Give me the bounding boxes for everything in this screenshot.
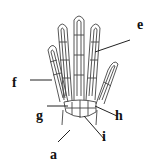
leader-e (95, 40, 130, 52)
middle-finger-bones (74, 16, 84, 100)
leader-h (95, 106, 117, 116)
leader-a (58, 130, 70, 142)
thumb-bones (96, 62, 118, 104)
label-e: e (137, 18, 143, 32)
ulna-bone (62, 110, 63, 125)
hand-skeleton-drawing (0, 0, 156, 167)
label-f: f (12, 76, 17, 90)
label-a: a (50, 148, 57, 162)
label-i: i (102, 130, 106, 144)
label-h: h (115, 109, 123, 123)
label-g: g (36, 109, 43, 123)
hand-skeleton-diagram: a e f g h i (0, 0, 156, 167)
